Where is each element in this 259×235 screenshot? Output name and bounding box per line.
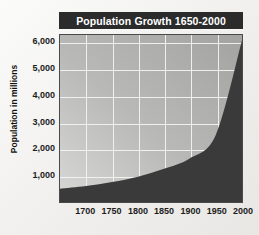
x-axis-tick-labels: 1700175018001850190019502000 <box>0 206 259 224</box>
chart-figure: Population Growth 1650-2000 1,0002,0003,… <box>0 0 259 235</box>
y-axis-tick-label: 6,000 <box>3 36 55 46</box>
chart-title: Population Growth 1650-2000 <box>76 15 226 27</box>
population-area-series <box>60 35 242 202</box>
plot-area <box>59 34 243 203</box>
x-axis-tick-label: 2000 <box>223 206 259 216</box>
y-axis-title: Population in millions <box>9 49 19 169</box>
page-background: Population Growth 1650-2000 1,0002,0003,… <box>0 0 259 235</box>
y-axis-tick-label: 1,000 <box>3 170 55 180</box>
area-path <box>60 40 242 202</box>
chart-title-banner: Population Growth 1650-2000 <box>59 12 243 29</box>
